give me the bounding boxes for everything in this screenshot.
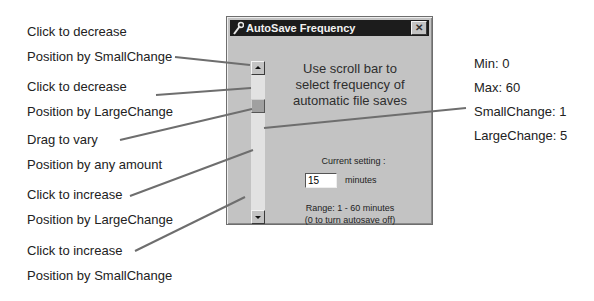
property-smallchange: SmallChange: 1 xyxy=(474,104,567,128)
annotation-text: Click to increase xyxy=(27,243,172,268)
annotation-decrease-small: Click to decrease Position by SmallChang… xyxy=(27,24,172,74)
wrench-icon xyxy=(232,21,244,35)
autosave-dialog: AutoSave Frequency ✕ Use scroll bar to s… xyxy=(226,16,433,225)
range-line: (0 to turn autosave off) xyxy=(275,214,425,226)
title-bar[interactable]: AutoSave Frequency ✕ xyxy=(230,20,429,36)
dialog-title: AutoSave Frequency xyxy=(246,20,355,36)
minutes-input[interactable] xyxy=(305,173,337,188)
annotation-text: Drag to vary xyxy=(27,132,162,157)
unit-label: minutes xyxy=(345,175,377,185)
property-max: Max: 60 xyxy=(474,80,567,104)
close-button[interactable]: ✕ xyxy=(411,21,427,35)
annotation-text: Click to increase xyxy=(27,187,173,212)
annotation-text: Click to decrease xyxy=(27,24,172,49)
annotation-text: Position by SmallChange xyxy=(27,49,172,74)
annotation-text: Position by LargeChange xyxy=(27,104,173,129)
instruction-line: automatic file saves xyxy=(275,93,425,109)
annotation-text: Position by SmallChange xyxy=(27,268,172,293)
annotation-text: Click to decrease xyxy=(27,79,173,104)
range-text: Range: 1 - 60 minutes (0 to turn autosav… xyxy=(275,202,425,226)
annotation-text: Position by LargeChange xyxy=(27,212,173,237)
instruction-line: Use scroll bar to xyxy=(275,61,425,77)
annotation-increase-small: Click to increase Position by SmallChang… xyxy=(27,243,172,293)
vertical-scrollbar[interactable] xyxy=(251,61,265,224)
instruction-line: select frequency of xyxy=(275,77,425,93)
annotation-text: Position by any amount xyxy=(27,157,162,182)
annotation-decrease-large: Click to decrease Position by LargeChang… xyxy=(27,79,173,129)
scroll-up-button[interactable] xyxy=(251,61,265,75)
scrollbar-properties: Min: 0 Max: 60 SmallChange: 1 LargeChang… xyxy=(474,56,567,152)
property-min: Min: 0 xyxy=(474,56,567,80)
range-line: Range: 1 - 60 minutes xyxy=(275,202,425,214)
arrow-up-icon xyxy=(255,66,261,69)
scroll-thumb[interactable] xyxy=(251,99,265,113)
arrow-down-icon xyxy=(255,216,261,219)
current-setting-label: Current setting : xyxy=(251,156,456,166)
scroll-down-button[interactable] xyxy=(251,210,265,224)
instruction-text: Use scroll bar to select frequency of au… xyxy=(275,61,425,109)
annotation-increase-large: Click to increase Position by LargeChang… xyxy=(27,187,173,237)
property-largechange: LargeChange: 5 xyxy=(474,128,567,152)
annotation-drag: Drag to vary Position by any amount xyxy=(27,132,162,182)
